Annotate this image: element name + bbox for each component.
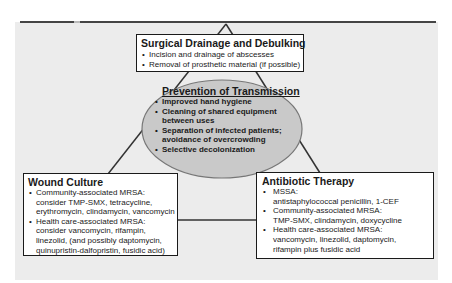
list-item-text-cont: antistaphylococcal penicillin, 1-CEF xyxy=(273,197,428,207)
antibiotic-therapy-box: Antibiotic Therapy MSSA: antistaphylococ… xyxy=(256,172,434,259)
list-item: Removal of prosthetic material (if possi… xyxy=(141,60,299,70)
prevention-title: Prevention of Transmission xyxy=(162,85,302,97)
list-item-text: Removal of prosthetic material (if possi… xyxy=(149,60,300,69)
list-item: Incision and drainage of abscesses xyxy=(141,50,299,60)
antibiotic-therapy-list: MSSA: antistaphylococcal penicillin, 1-C… xyxy=(262,187,428,254)
list-item: Improved hand hygiene xyxy=(154,97,302,107)
list-item-text: MSSA: xyxy=(273,187,298,196)
wound-culture-box: Wound Culture Community-associated MRSA:… xyxy=(23,173,178,256)
list-item-text-cont: vancomycin, linezolid, daptomycin, xyxy=(273,235,428,245)
list-item: Separation of infected patients;avoidanc… xyxy=(154,126,302,145)
surgical-drainage-box: Surgical Drainage and Debulking Incision… xyxy=(136,34,304,72)
list-item-text: Separation of infected patients; xyxy=(162,126,282,135)
list-item: Health care-associated MRSA: consider va… xyxy=(28,217,173,255)
prevention-content: Prevention of Transmission Improved hand… xyxy=(152,85,302,155)
list-item: Community-associated MRSA: consider TMP-… xyxy=(28,188,173,217)
list-item-text-cont: erythromycin, clindamycin, vancomycin xyxy=(36,207,173,217)
list-item-text-cont: linezolid, (and possibly daptomycin, xyxy=(36,236,173,246)
wound-culture-title: Wound Culture xyxy=(28,176,173,188)
list-item-text: Health care-associated MRSA: xyxy=(36,217,145,226)
list-item-text-cont: quinupristin-dalfopristin, fusidic acid) xyxy=(36,246,173,256)
list-item-text-cont: rifampin plus fusidic acid xyxy=(273,245,428,255)
list-item: MSSA: antistaphylococcal penicillin, 1-C… xyxy=(262,187,428,206)
list-item-text: Community-associated MRSA: xyxy=(273,206,382,215)
list-item-text-cont: avoidance of overcrowding xyxy=(162,135,302,145)
list-item: Community-associated MRSA: TMP-SMX, clin… xyxy=(262,206,428,225)
prevention-list: Improved hand hygiene Cleaning of shared… xyxy=(152,97,302,155)
surgical-drainage-title: Surgical Drainage and Debulking xyxy=(141,37,299,49)
list-item-text-cont: consider TMP-SMX, tetracycline, xyxy=(36,198,173,208)
wound-culture-list: Community-associated MRSA: consider TMP-… xyxy=(28,188,173,255)
list-item-text: Cleaning of shared equipment xyxy=(162,107,277,116)
list-item-text-cont: TMP-SMX, clindamycin, doxycycline xyxy=(273,216,428,226)
list-item-text-cont: between uses xyxy=(162,116,302,126)
list-item-text: Incision and drainage of abscesses xyxy=(149,50,274,59)
list-item-text: Selective decolonization xyxy=(162,145,255,154)
list-item-text: Community-associated MRSA: xyxy=(36,188,145,197)
list-item-text-cont: consider vancomycin, rifampin, xyxy=(36,226,173,236)
list-item: Selective decolonization xyxy=(154,145,302,155)
list-item-text: Health care-associated MRSA: xyxy=(273,225,382,234)
list-item: Cleaning of shared equipmentbetween uses xyxy=(154,107,302,126)
antibiotic-therapy-title: Antibiotic Therapy xyxy=(262,175,428,187)
list-item: Health care-associated MRSA: vancomycin,… xyxy=(262,225,428,254)
surgical-drainage-list: Incision and drainage of abscesses Remov… xyxy=(141,50,299,69)
list-item-text: Improved hand hygiene xyxy=(162,97,252,106)
